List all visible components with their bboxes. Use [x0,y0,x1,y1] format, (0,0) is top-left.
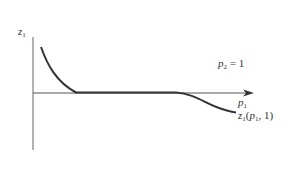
x-axis-label: p1 [237,96,248,110]
curve-label: z1(p1, 1) [237,109,273,123]
diagram-canvas: z1 p2 = 1 p1 z1(p1, 1) [0,0,289,169]
y-axis-label: z1 [17,25,26,39]
excess-demand-curve [41,47,236,113]
parameter-annotation: p2 = 1 [217,57,244,71]
